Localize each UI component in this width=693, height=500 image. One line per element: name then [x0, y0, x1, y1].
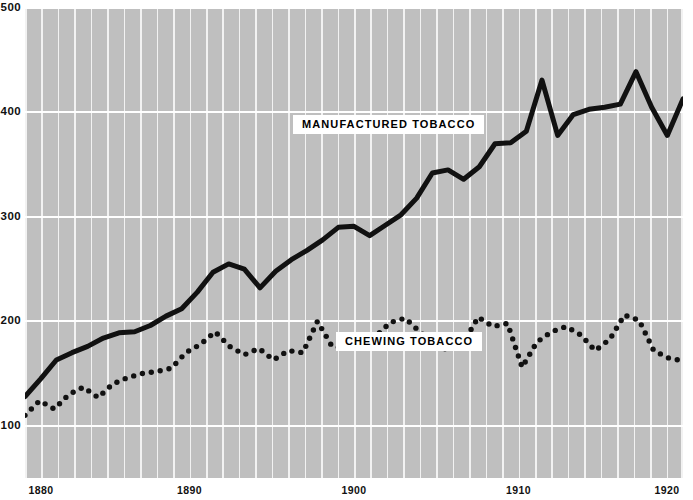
- tobacco-production-chart: MANUFACTURED TOBACCO CHEWING TOBACCO 100…: [0, 0, 693, 500]
- series-dot: [227, 344, 232, 349]
- y-axis-tick-label: 100: [0, 419, 21, 431]
- series-dots-chewing-tobacco: [25, 313, 680, 418]
- series-dot: [507, 328, 512, 333]
- series-dot: [251, 348, 256, 353]
- series-dot: [25, 413, 28, 418]
- series-dot: [122, 376, 127, 381]
- x-axis-tick-label: 1910: [506, 484, 531, 496]
- series-dot: [208, 333, 213, 338]
- series-dot: [658, 351, 663, 356]
- y-axis-tick-label: 200: [0, 314, 21, 326]
- series-dot: [614, 326, 619, 331]
- series-dot: [166, 366, 171, 371]
- series-dot: [50, 406, 55, 411]
- series-dot: [383, 324, 388, 329]
- series-dot: [235, 348, 240, 353]
- series-dot: [303, 344, 308, 349]
- series-dot: [131, 373, 136, 378]
- series-dot: [221, 338, 226, 343]
- series-dot: [274, 356, 279, 361]
- series-dot: [157, 368, 162, 373]
- series-dot: [281, 351, 286, 356]
- series-dot: [609, 333, 614, 338]
- series-dot: [516, 353, 521, 358]
- y-axis-tick-label: 300: [0, 210, 21, 222]
- series-dot: [186, 348, 191, 353]
- series-dot: [29, 406, 34, 411]
- series-dot: [42, 401, 47, 406]
- series-dot: [513, 345, 518, 350]
- series-dot: [569, 327, 574, 332]
- series-dot: [173, 361, 178, 366]
- series-dot: [79, 386, 84, 391]
- series-dot: [149, 370, 154, 375]
- series-dot: [523, 359, 528, 364]
- series-dot: [289, 348, 294, 353]
- series-dot: [639, 322, 644, 327]
- series-dot: [215, 331, 220, 336]
- series-dot: [407, 319, 412, 324]
- series-dot: [140, 371, 145, 376]
- series-dot: [473, 319, 478, 324]
- series-label-chewing-tobacco: CHEWING TOBACCO: [336, 332, 482, 351]
- series-dot: [266, 354, 271, 359]
- plot-area: MANUFACTURED TOBACCO CHEWING TOBACCO: [25, 8, 683, 478]
- series-label-manufactured-tobacco: MANUFACTURED TOBACCO: [293, 115, 484, 134]
- series-dot: [399, 316, 404, 321]
- series-dot: [650, 346, 655, 351]
- series-dot: [494, 323, 499, 328]
- series-dot: [666, 355, 671, 360]
- series-dot: [646, 338, 651, 343]
- series-dot: [298, 350, 303, 355]
- series-dot: [553, 328, 558, 333]
- series-dot: [63, 395, 68, 400]
- x-axis-tick-label: 1880: [29, 484, 54, 496]
- series-dot: [194, 344, 199, 349]
- series-dot: [545, 332, 550, 337]
- x-axis-tick-label: 1920: [655, 484, 680, 496]
- series-dot: [589, 344, 594, 349]
- series-dot: [107, 384, 112, 389]
- x-axis-tick-label: 1890: [177, 484, 202, 496]
- series-dot: [532, 344, 537, 349]
- series-dot: [596, 345, 601, 350]
- series-dot: [324, 334, 329, 339]
- series-dot: [100, 390, 105, 395]
- series-dot: [319, 326, 324, 331]
- series-dot: [413, 325, 418, 330]
- x-axis-tick-label: 1900: [342, 484, 367, 496]
- series-dot: [503, 321, 508, 326]
- y-axis-tick-label: 400: [0, 105, 21, 117]
- series-dot: [618, 318, 623, 323]
- series-dot: [603, 340, 608, 345]
- series-dot: [510, 336, 515, 341]
- series-dot: [328, 341, 333, 346]
- series-dot: [243, 351, 248, 356]
- series-dot: [307, 335, 312, 340]
- series-dot: [486, 321, 491, 326]
- series-layer: [25, 8, 683, 478]
- series-dot: [391, 319, 396, 324]
- series-dot: [114, 380, 119, 385]
- series-dot: [577, 332, 582, 337]
- series-dot: [311, 327, 316, 332]
- series-dot: [675, 357, 680, 362]
- series-dot: [561, 325, 566, 330]
- series-dot: [86, 388, 91, 393]
- series-dot: [35, 400, 40, 405]
- series-dot: [259, 348, 264, 353]
- series-dot: [179, 354, 184, 359]
- series-dot: [537, 337, 542, 342]
- series-dot: [201, 339, 206, 344]
- series-dot: [57, 401, 62, 406]
- series-dot: [70, 390, 75, 395]
- series-dot: [583, 338, 588, 343]
- series-dot: [527, 352, 532, 357]
- y-axis-tick-label: 500: [0, 1, 21, 13]
- series-dot: [624, 313, 629, 318]
- series-dot: [314, 319, 319, 324]
- series-dot: [93, 393, 98, 398]
- series-dot: [643, 330, 648, 335]
- series-dot: [633, 316, 638, 321]
- series-dot: [479, 316, 484, 321]
